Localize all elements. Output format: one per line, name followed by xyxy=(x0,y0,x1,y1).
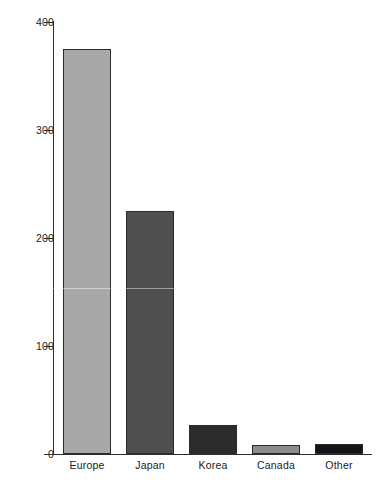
x-label-canada: Canada xyxy=(252,460,300,471)
bar-korea xyxy=(189,425,237,454)
y-tick-label-100: 100 xyxy=(16,341,54,352)
y-tick-label-0: 0 xyxy=(16,449,54,460)
x-label-other: Other xyxy=(315,460,363,471)
bar-japan xyxy=(126,211,174,454)
y-tick-label-200: 200 xyxy=(16,233,54,244)
x-label-korea: Korea xyxy=(189,460,237,471)
bar-other xyxy=(315,444,363,454)
x-axis-line xyxy=(53,454,372,455)
bar-europe xyxy=(63,49,111,454)
x-label-europe: Europe xyxy=(63,460,111,471)
plot-area: 0 100 200 300 400 Europe Japan Korea Ca xyxy=(0,0,384,486)
bar-chart: 0 100 200 300 400 Europe Japan Korea Ca xyxy=(0,0,384,486)
x-label-japan: Japan xyxy=(126,460,174,471)
y-tick-label-400: 400 xyxy=(16,17,54,28)
bar-canada xyxy=(252,445,300,454)
scan-line-artifact xyxy=(0,288,384,289)
y-tick-label-300: 300 xyxy=(16,125,54,136)
